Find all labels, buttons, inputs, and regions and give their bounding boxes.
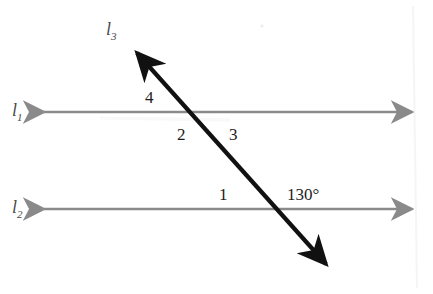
line-label-l1: l1 (12, 100, 23, 123)
angle-label-1: 1 (219, 185, 228, 205)
angle-measure-130: 130° (287, 185, 319, 205)
figure-background (0, 0, 433, 294)
line-label-l2: l2 (12, 197, 23, 220)
angle-label-4: 4 (145, 88, 154, 108)
geometry-figure (0, 0, 433, 294)
angle-label-3: 3 (229, 125, 238, 145)
line-label-l3: l3 (106, 19, 117, 42)
angle-label-2: 2 (177, 125, 186, 145)
